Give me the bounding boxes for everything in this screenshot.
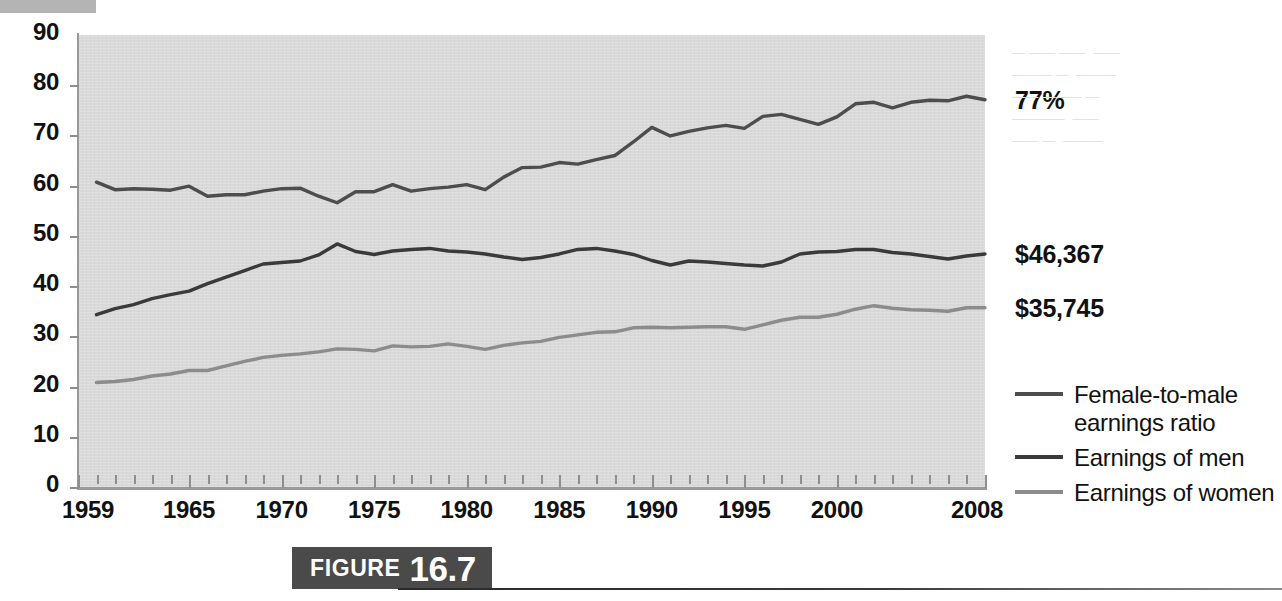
y-axis-tick-label: 50 <box>3 219 59 247</box>
figure-container: 9080706050403020100 19591965197019751980… <box>0 0 1282 601</box>
x-axis-tick-mark <box>985 475 987 488</box>
y-axis-tick-label: 70 <box>3 118 59 146</box>
x-axis-tick-label: 2008 <box>951 496 1003 524</box>
legend-line-swatch-icon <box>1015 490 1063 494</box>
x-axis-line <box>77 487 987 490</box>
x-axis-tick-label: 1980 <box>441 496 493 524</box>
x-axis-tick-label: 1965 <box>163 496 215 524</box>
page-tab-bar <box>0 0 96 13</box>
series-line <box>97 244 985 315</box>
y-axis-tick-label: 40 <box>3 269 59 297</box>
x-axis-tick-label: 2000 <box>811 496 863 524</box>
y-axis-tick-label: 0 <box>3 470 59 498</box>
series-line <box>97 96 985 202</box>
y-axis-tick-label: 60 <box>3 169 59 197</box>
y-axis-tick-label: 30 <box>3 319 59 347</box>
legend-item-label: Earnings of women <box>1074 479 1274 507</box>
legend-line-swatch-icon <box>1015 455 1063 459</box>
page-bleedthrough-text: —— — ——— <box>1012 130 1103 151</box>
x-axis-tick-label: 1975 <box>348 496 400 524</box>
page-bleedthrough-text: — —— —— —— <box>1012 42 1120 63</box>
legend-item[interactable]: Female-to-male earnings ratio <box>1015 381 1277 437</box>
y-axis-tick-label: 80 <box>3 68 59 96</box>
x-axis-tick-label: 1970 <box>256 496 308 524</box>
y-axis-tick-label: 10 <box>3 420 59 448</box>
figure-rule <box>398 588 1282 590</box>
legend-item-label: Earnings of men <box>1074 444 1244 472</box>
legend-line-swatch-icon <box>1015 392 1063 396</box>
x-axis-tick-label: 1995 <box>718 496 770 524</box>
figure-badge: FIGURE 16.7 <box>292 547 492 589</box>
legend-item[interactable]: Earnings of men <box>1015 444 1277 472</box>
legend-item[interactable]: Earnings of women <box>1015 479 1277 507</box>
series-end-value-label: 77% <box>1015 86 1064 115</box>
chart-series-layer <box>78 35 985 487</box>
series-end-value-label: $46,367 <box>1015 240 1104 269</box>
page-bleedthrough-text: ——— — ——— <box>1012 64 1116 85</box>
x-axis-tick-label: 1990 <box>626 496 678 524</box>
x-axis-tick-label: 1959 <box>62 496 114 524</box>
y-axis-tick-label: 90 <box>3 18 59 46</box>
y-axis-tick-label: 20 <box>3 370 59 398</box>
series-line <box>97 306 985 383</box>
figure-badge-word: FIGURE <box>310 555 401 582</box>
x-axis-tick-label: 1985 <box>533 496 585 524</box>
figure-badge-number: 16.7 <box>410 549 476 589</box>
series-end-value-label: $35,745 <box>1015 294 1104 323</box>
chart-legend: Female-to-male earnings ratioEarnings of… <box>1015 381 1277 514</box>
legend-item-label: Female-to-male earnings ratio <box>1074 381 1277 437</box>
